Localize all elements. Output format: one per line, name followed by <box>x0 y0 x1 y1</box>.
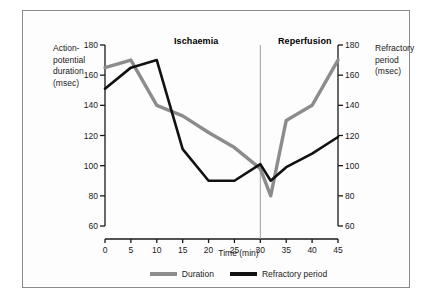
y-tick-label-left: 180 <box>84 40 98 50</box>
figure-frame: Action- potential duration (msec) Refrac… <box>22 10 410 288</box>
y-tick-label-right: 160 <box>345 70 359 80</box>
legend-item: Duration <box>150 269 214 279</box>
legend-label: Duration <box>182 269 214 279</box>
legend-label: Refractory period <box>262 269 327 279</box>
y-tick-label-left: 100 <box>84 161 98 171</box>
legend-item: Refractory period <box>230 269 327 279</box>
y-tick-label-right: 120 <box>345 131 359 141</box>
x-axis-label: Time (min) <box>23 248 431 258</box>
series-line-duration <box>105 60 338 196</box>
legend-swatch-duration <box>150 272 177 277</box>
y-tick-label-left: 60 <box>89 221 99 231</box>
y-tick-label-right: 140 <box>345 100 359 110</box>
y-tick-label-left: 80 <box>89 191 99 201</box>
chart-legend: Duration Refractory period <box>23 269 431 279</box>
y-tick-label-right: 80 <box>345 191 355 201</box>
y-tick-label-right: 180 <box>345 40 359 50</box>
legend-swatch-refractory <box>230 272 257 276</box>
y-tick-label-left: 160 <box>84 70 98 80</box>
y-tick-label-left: 120 <box>84 131 98 141</box>
y-tick-label-right: 100 <box>345 161 359 171</box>
y-tick-label-right: 60 <box>345 221 355 231</box>
y-tick-label-left: 140 <box>84 100 98 110</box>
